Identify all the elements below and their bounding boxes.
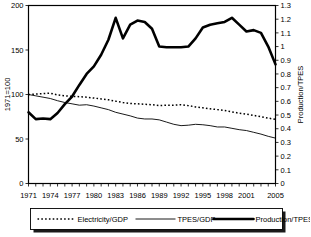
y2-axis-tick-label: 1.1 bbox=[281, 29, 291, 38]
y-axis-tick-label: 100 bbox=[11, 90, 24, 99]
x-axis-tick-label: 1980 bbox=[86, 191, 103, 200]
y2-axis-tick-label: 0.4 bbox=[281, 124, 291, 133]
chart-container: 05010015020000.10.20.30.40.50.60.70.80.9… bbox=[0, 0, 310, 237]
y2-axis-tick-label: 0 bbox=[281, 179, 285, 188]
x-axis-tick-label: 1983 bbox=[107, 191, 124, 200]
y2-axis-tick-label: 0.9 bbox=[281, 56, 291, 65]
legend-label-2: Production/TPES bbox=[256, 215, 311, 224]
legend-label-0: Electricity/GDP bbox=[78, 215, 128, 224]
y2-axis-tick-label: 0.1 bbox=[281, 166, 291, 175]
y2-axis-tick-label: 0.6 bbox=[281, 97, 291, 106]
series-dotted bbox=[29, 93, 276, 119]
y-axis-tick-label: 150 bbox=[11, 46, 24, 55]
y2-axis-tick-label: 0.3 bbox=[281, 138, 291, 147]
x-axis-tick-label: 1998 bbox=[216, 191, 233, 200]
x-axis-tick-label: 1992 bbox=[173, 191, 190, 200]
x-axis-tick-label: 1986 bbox=[129, 191, 146, 200]
y2-axis-tick-label: 1.3 bbox=[281, 1, 291, 10]
y-axis-tick-label: 200 bbox=[11, 1, 24, 10]
y2-axis-tick-label: 0.5 bbox=[281, 111, 291, 120]
y2-axis-tick-label: 1 bbox=[281, 42, 285, 51]
y2-axis-title: Production/TPES bbox=[296, 66, 305, 124]
series-thin bbox=[29, 95, 276, 139]
x-axis-tick-label: 2001 bbox=[238, 191, 255, 200]
x-axis-tick-label: 1971 bbox=[20, 191, 37, 200]
x-axis-tick-label: 1977 bbox=[64, 191, 81, 200]
y-axis-tick-label: 50 bbox=[15, 135, 23, 144]
y-axis-title: 1971=100 bbox=[3, 78, 12, 112]
y2-axis-tick-label: 0.2 bbox=[281, 152, 291, 161]
y2-axis-tick-label: 0.7 bbox=[281, 83, 291, 92]
line-chart: 05010015020000.10.20.30.40.50.60.70.80.9… bbox=[0, 0, 310, 237]
y2-axis-tick-label: 1.2 bbox=[281, 15, 291, 24]
x-axis-tick-label: 1995 bbox=[195, 191, 212, 200]
y2-axis-tick-label: 0.8 bbox=[281, 70, 291, 79]
x-axis-tick-label: 1974 bbox=[42, 191, 59, 200]
legend-label-1: TPES/GDP bbox=[178, 215, 216, 224]
x-axis-tick-label: 2005 bbox=[267, 191, 284, 200]
y-axis-tick-label: 0 bbox=[19, 179, 23, 188]
x-axis-tick-label: 1989 bbox=[151, 191, 168, 200]
series-thick bbox=[29, 18, 276, 119]
